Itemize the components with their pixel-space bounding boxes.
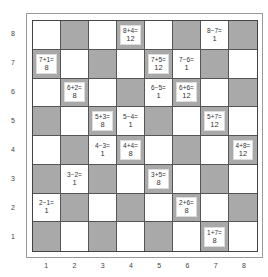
square-c3-r4: 4−3=1	[89, 136, 117, 165]
equation-result: 1	[95, 150, 110, 158]
square-c1-r1	[33, 222, 61, 251]
equation-result: 12	[123, 35, 138, 43]
row-label: 5	[6, 117, 20, 124]
square-c5-r2	[145, 194, 173, 223]
equation-label: 1+7=8	[204, 227, 225, 247]
equation-expression: 7−6=	[179, 56, 194, 63]
square-c3-r2	[89, 194, 117, 223]
square-c3-r3	[89, 165, 117, 194]
equation-result: 1	[207, 35, 222, 43]
equation-label: 5−4=1	[121, 112, 140, 130]
column-label: 6	[180, 262, 194, 269]
square-c1-r5	[33, 107, 61, 136]
row-label: 2	[6, 204, 20, 211]
equation-result: 8	[151, 179, 166, 187]
row-label: 3	[6, 175, 20, 182]
square-c8-r5	[229, 107, 257, 136]
column-label: 3	[96, 262, 110, 269]
square-c6-r1	[173, 222, 201, 251]
column-label: 5	[152, 262, 166, 269]
equation-expression: 4+4=	[123, 142, 138, 149]
square-c2-r1	[61, 222, 89, 251]
equation-expression: 1+7=	[207, 229, 222, 236]
equation-expression: 8+4=	[123, 27, 138, 34]
square-c5-r8	[145, 21, 173, 50]
square-c1-r8	[33, 21, 61, 50]
equation-result: 12	[179, 92, 194, 100]
equation-result: 12	[236, 150, 251, 158]
square-c8-r6	[229, 79, 257, 108]
equation-expression: 3−2=	[67, 171, 82, 178]
square-c4-r2	[117, 194, 145, 223]
square-c3-r7	[89, 50, 117, 79]
equation-label: 3−2=1	[65, 170, 84, 188]
square-c7-r8: 8−7=1	[201, 21, 229, 50]
equation-expression: 4−3=	[95, 142, 110, 149]
equation-result: 12	[207, 121, 222, 129]
checkerboard-grid: 8+4=128−7=17+1=87+5=127−6=16+2=86−5=16+6…	[32, 20, 258, 252]
equation-expression: 5−4=	[123, 113, 138, 120]
square-c8-r4: 4+8=12	[229, 136, 257, 165]
equation-label: 4−3=1	[93, 141, 112, 159]
square-c6-r4	[173, 136, 201, 165]
equation-result: 8	[67, 92, 82, 100]
square-c3-r1	[89, 222, 117, 251]
square-c5-r4	[145, 136, 173, 165]
square-c6-r8	[173, 21, 201, 50]
equation-result: 1	[179, 64, 194, 72]
equation-expression: 2+6=	[179, 199, 194, 206]
square-c4-r6	[117, 79, 145, 108]
square-c7-r5: 5+7=12	[201, 107, 229, 136]
square-c4-r3	[117, 165, 145, 194]
equation-expression: 2−1=	[39, 199, 54, 206]
square-c4-r1	[117, 222, 145, 251]
equation-label: 8+4=12	[120, 25, 141, 45]
equation-result: 1	[39, 207, 54, 215]
equation-expression: 5+3=	[95, 113, 110, 120]
equation-result: 8	[39, 64, 54, 72]
square-c4-r7	[117, 50, 145, 79]
square-c4-r5: 5−4=1	[117, 107, 145, 136]
equation-label: 7+5=12	[148, 54, 169, 74]
equation-expression: 8−7=	[207, 27, 222, 34]
equation-expression: 5+7=	[207, 113, 222, 120]
square-c7-r7	[201, 50, 229, 79]
square-c6-r6: 6+6=12	[173, 79, 201, 108]
square-c8-r2	[229, 194, 257, 223]
equation-result: 12	[151, 64, 166, 72]
square-c2-r4	[61, 136, 89, 165]
square-c3-r6	[89, 79, 117, 108]
square-c6-r7: 7−6=1	[173, 50, 201, 79]
square-c2-r5	[61, 107, 89, 136]
equation-expression: 6+2=	[67, 84, 82, 91]
equation-result: 8	[95, 121, 110, 129]
square-c7-r1: 1+7=8	[201, 222, 229, 251]
square-c1-r7: 7+1=8	[33, 50, 61, 79]
equation-label: 4+8=12	[233, 140, 254, 160]
square-c5-r3: 3+5=8	[145, 165, 173, 194]
equation-expression: 6−5=	[151, 84, 166, 91]
row-label: 7	[6, 59, 20, 66]
square-c8-r1	[229, 222, 257, 251]
equation-label: 6+2=8	[64, 82, 85, 102]
square-c2-r3: 3−2=1	[61, 165, 89, 194]
square-c7-r6	[201, 79, 229, 108]
column-label: 7	[209, 262, 223, 269]
square-c2-r7	[61, 50, 89, 79]
square-c2-r6: 6+2=8	[61, 79, 89, 108]
equation-label: 8−7=1	[205, 26, 224, 44]
square-c8-r3	[229, 165, 257, 194]
column-label: 4	[124, 262, 138, 269]
equation-label: 3+5=8	[148, 169, 169, 189]
equation-result: 8	[123, 150, 138, 158]
square-c7-r2	[201, 194, 229, 223]
square-c5-r1	[145, 222, 173, 251]
equation-label: 4+4=8	[120, 140, 141, 160]
square-c6-r2: 2+6=8	[173, 194, 201, 223]
equation-result: 8	[179, 207, 194, 215]
square-c3-r8	[89, 21, 117, 50]
square-c8-r8	[229, 21, 257, 50]
square-c5-r7: 7+5=12	[145, 50, 173, 79]
equation-label: 7−6=1	[177, 55, 196, 73]
equation-label: 6+6=12	[176, 82, 197, 102]
